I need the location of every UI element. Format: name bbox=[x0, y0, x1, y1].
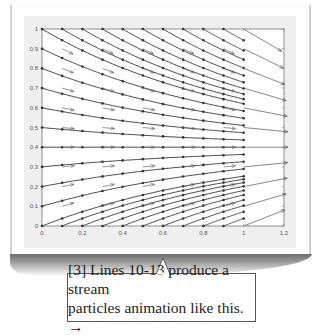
callout-pointer-mask bbox=[0, 0, 330, 331]
